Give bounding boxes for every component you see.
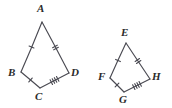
vertex-label-c: C <box>35 91 42 102</box>
vertex-label-h: H <box>152 71 161 82</box>
tick-mark-layer <box>29 45 142 89</box>
side-he <box>126 43 150 79</box>
vertex-label-a: A <box>37 3 44 14</box>
vertex-label-f: F <box>98 71 105 82</box>
geometry-diagram-svg <box>0 0 172 108</box>
vertex-label-e: E <box>121 27 128 38</box>
side-gh <box>124 79 150 92</box>
vertex-label-d: D <box>71 67 79 78</box>
side-cd <box>40 73 69 88</box>
shape-layer <box>21 22 150 92</box>
vertex-label-b: B <box>8 67 15 78</box>
side-da <box>42 22 69 73</box>
geometry-figure-canvas: ABCDEFGH <box>0 0 172 108</box>
vertex-label-g: G <box>119 94 127 105</box>
